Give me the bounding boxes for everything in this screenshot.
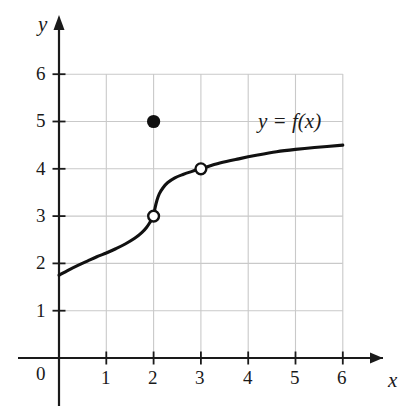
filled-dot-marker-1: [147, 115, 160, 128]
y-axis-label: y: [38, 14, 47, 35]
x-tick-label-5: 5: [290, 368, 300, 387]
x-tick-label-3: 3: [195, 368, 205, 387]
x-axis-arrowhead: [370, 353, 383, 364]
y-tick-label-2: 2: [36, 253, 46, 272]
curve-equation-label: y = f(x): [258, 111, 321, 132]
plot-canvas: [0, 0, 413, 417]
y-tick-label-3: 3: [36, 206, 46, 225]
x-tick-label-1: 1: [101, 368, 111, 387]
x-tick-label-6: 6: [337, 368, 347, 387]
function-graph-figure: 6 5 4 3 2 1 0 1 2 3 4 5 6 y x y = f(x): [0, 0, 413, 417]
origin-label: 0: [36, 364, 46, 383]
y-axis-arrowhead: [54, 15, 65, 30]
x-axis-label: x: [388, 370, 397, 391]
y-tick-label-4: 4: [36, 159, 46, 178]
y-tick-label-5: 5: [36, 111, 46, 130]
y-tick-label-6: 6: [36, 64, 46, 83]
open-circle-marker-2: [196, 163, 207, 174]
y-tick-label-1: 1: [36, 301, 46, 320]
open-circle-marker-1: [148, 211, 159, 222]
x-tick-label-2: 2: [148, 368, 158, 387]
x-tick-label-4: 4: [243, 368, 253, 387]
